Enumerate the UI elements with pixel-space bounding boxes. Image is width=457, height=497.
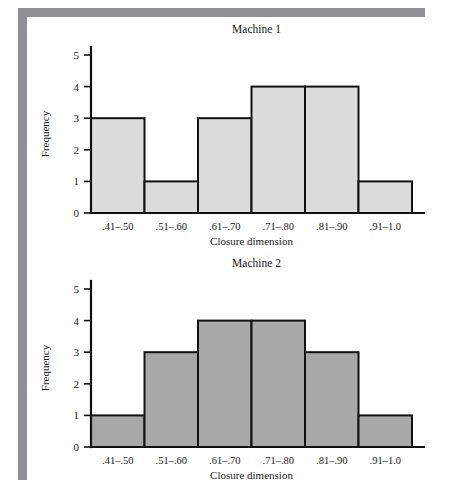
y-axis-label: Frequency [39, 110, 51, 157]
bar-group [305, 352, 359, 447]
histogram-machine-1-svg: Machine 1012345.41–.50.51–.60.61–.70.71–… [27, 17, 457, 247]
bar-group [359, 181, 413, 213]
x-tick-label: .61–.70 [209, 221, 241, 232]
x-tick-label: .81–.90 [316, 221, 348, 232]
bar-group [359, 415, 413, 447]
histogram-machine-2-svg: Machine 2012345.41–.50.51–.60.61–.70.71–… [27, 251, 457, 491]
bar-group [252, 321, 306, 447]
histogram-machine-2: Machine 2012345.41–.50.51–.60.61–.70.71–… [27, 251, 457, 491]
bar [198, 118, 252, 213]
bar-group [198, 118, 252, 213]
bar [252, 87, 306, 213]
bar [145, 181, 199, 213]
bar-group [305, 87, 359, 213]
histogram-machine-1: Machine 1012345.41–.50.51–.60.61–.70.71–… [27, 17, 457, 247]
y-tick-label: 3 [74, 112, 80, 124]
bar [145, 352, 199, 447]
bar-group [91, 415, 145, 447]
y-tick-label: 4 [74, 315, 80, 327]
bar [91, 118, 145, 213]
page-edge-rule-top [18, 8, 425, 17]
y-tick-label: 0 [74, 207, 80, 219]
x-axis-label: Closure dimension [210, 469, 293, 481]
bar-group [145, 352, 199, 447]
figure-page: Machine 1012345.41–.50.51–.60.61–.70.71–… [0, 0, 457, 497]
x-tick-label: .91–1.0 [370, 455, 402, 466]
bar [198, 321, 252, 447]
chart-title: Machine 1 [232, 23, 281, 35]
bar-group [252, 87, 306, 213]
bar [359, 181, 413, 213]
x-tick-label: .81–.90 [316, 455, 348, 466]
x-tick-label: .51–.60 [156, 455, 188, 466]
bar [305, 352, 359, 447]
bar-group [198, 321, 252, 447]
bar [252, 321, 306, 447]
bar-group [145, 181, 199, 213]
bar-group [91, 118, 145, 213]
y-tick-label: 5 [74, 49, 80, 61]
y-tick-label: 5 [74, 283, 80, 295]
bar [305, 87, 359, 213]
y-tick-label: 2 [74, 378, 80, 390]
page-edge-rule-left [18, 8, 27, 480]
x-axis-label: Closure dimension [210, 235, 293, 247]
x-tick-label: .51–.60 [156, 221, 188, 232]
chart-title: Machine 2 [232, 257, 281, 269]
y-tick-label: 0 [74, 441, 80, 453]
y-tick-label: 2 [74, 144, 80, 156]
x-tick-label: .61–.70 [209, 455, 241, 466]
y-axis-label: Frequency [39, 344, 51, 391]
x-tick-label: .91–1.0 [370, 221, 402, 232]
y-tick-label: 1 [74, 175, 80, 187]
y-tick-label: 4 [74, 81, 80, 93]
x-tick-label: .71–.80 [263, 221, 295, 232]
bar [91, 415, 145, 447]
y-tick-label: 3 [74, 346, 80, 358]
x-tick-label: .41–.50 [102, 221, 134, 232]
x-tick-label: .41–.50 [102, 455, 134, 466]
x-tick-label: .71–.80 [263, 455, 295, 466]
bar [359, 415, 413, 447]
y-tick-label: 1 [74, 409, 80, 421]
